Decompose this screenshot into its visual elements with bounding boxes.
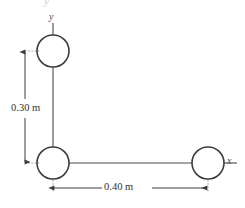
vertical-dimension-label: 0.30 m: [11, 103, 40, 114]
ghost-partial-glyph: y: [44, 0, 49, 7]
y-axis-label: y: [49, 12, 53, 22]
horizontal-dimension-label: 0.40 m: [104, 182, 133, 193]
x-axis-label: x: [227, 156, 231, 166]
figure-canvas: y y x 0.30 m 0.40 m: [0, 0, 245, 208]
mass-circle-origin: [37, 147, 69, 179]
mass-circle-right: [192, 147, 224, 179]
mass-circle-top: [37, 35, 69, 67]
